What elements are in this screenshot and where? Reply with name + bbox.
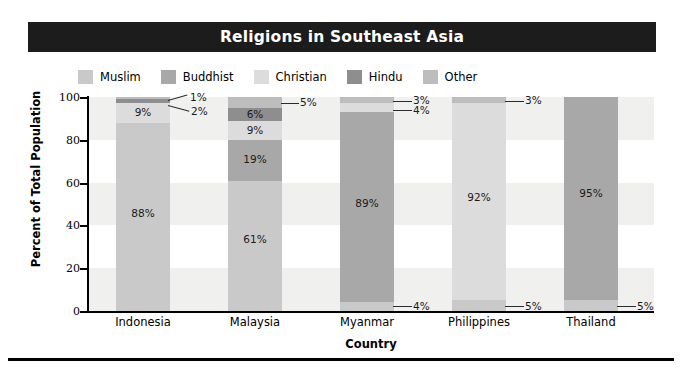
bar-value-malaysia-other: 5%: [300, 96, 317, 108]
bar-segment-indonesia-other[interactable]: [116, 97, 170, 99]
x-axis-label-myanmar: Myanmar: [312, 315, 422, 329]
x-axis-label-indonesia: Indonesia: [88, 315, 198, 329]
ytick-label-80: 80: [54, 134, 80, 147]
leader-line-myanmar-christian: [393, 110, 412, 111]
legend-item-christian: Christian: [254, 70, 327, 84]
leader-line-myanmar-other: [393, 101, 412, 102]
leader-line-myanmar-muslim: [393, 306, 412, 307]
legend-swatch-christian: [254, 70, 269, 84]
bar-segment-malaysia-buddhist[interactable]: 19%: [228, 140, 282, 181]
bar-value-malaysia-christian: 9%: [228, 124, 282, 136]
bar-segment-malaysia-hindu[interactable]: 6%: [228, 108, 282, 121]
bar-value-indonesia-muslim: 88%: [116, 207, 170, 219]
bar-segment-thailand-muslim[interactable]: [564, 300, 618, 311]
x-axis-title: Country: [88, 337, 654, 351]
bar-segment-myanmar-buddhist[interactable]: 89%: [340, 112, 394, 302]
plot-area: 88% 9% 61% 19% 9% 6%: [88, 97, 654, 311]
x-axis-label-thailand: Thailand: [536, 315, 646, 329]
bar-segment-philippines-other[interactable]: [452, 97, 506, 103]
legend-item-muslim: Muslim: [78, 70, 141, 84]
legend-swatch-muslim: [78, 70, 93, 84]
leader-line-malaysia-other: [281, 103, 299, 104]
ytick-label-60: 60: [54, 177, 80, 190]
y-axis-line: [87, 96, 89, 312]
bar-value-malaysia-buddhist: 19%: [228, 153, 282, 165]
bar-segment-indonesia-christian[interactable]: 9%: [116, 103, 170, 122]
x-axis-label-philippines: Philippines: [424, 315, 534, 329]
chart-title-banner: Religions in Southeast Asia: [28, 22, 656, 52]
bar-value-indonesia-hindu: 2%: [191, 105, 208, 117]
legend-label-christian: Christian: [276, 70, 327, 84]
bar-segment-indonesia-hindu[interactable]: [116, 99, 170, 103]
bar-stack-philippines: 92%: [452, 97, 506, 311]
leader-line-thailand-muslim: [617, 306, 636, 307]
bar-value-malaysia-hindu: 6%: [228, 108, 282, 120]
x-axis-line: [87, 311, 654, 313]
bar-stack-malaysia: 61% 19% 9% 6%: [228, 97, 282, 311]
page-title: Religions in Southeast Asia: [220, 28, 464, 46]
legend-label-buddhist: Buddhist: [183, 70, 234, 84]
legend-swatch-hindu: [347, 70, 362, 84]
leader-line-philippines-muslim: [505, 306, 524, 307]
ytick-label-20: 20: [54, 262, 80, 275]
bar-segment-malaysia-other[interactable]: [228, 97, 282, 108]
bar-segment-myanmar-muslim[interactable]: [340, 302, 394, 311]
bar-stack-myanmar: 89%: [340, 97, 394, 311]
bar-segment-myanmar-other[interactable]: [340, 97, 394, 103]
bar-segment-malaysia-christian[interactable]: 9%: [228, 121, 282, 140]
x-axis-label-malaysia: Malaysia: [200, 315, 310, 329]
legend-label-muslim: Muslim: [100, 70, 141, 84]
ytick-label-40: 40: [54, 219, 80, 232]
bar-segment-thailand-buddhist[interactable]: 95%: [564, 97, 618, 300]
legend-item-hindu: Hindu: [347, 70, 403, 84]
bar-value-malaysia-muslim: 61%: [228, 233, 282, 245]
bar-value-philippines-other: 3%: [525, 94, 542, 106]
legend-label-hindu: Hindu: [369, 70, 403, 84]
ytick-label-0: 0: [54, 305, 80, 318]
chart-legend: Muslim Buddhist Christian Hindu Other: [78, 68, 598, 86]
legend-swatch-other: [423, 70, 438, 84]
leader-line-philippines-other: [505, 101, 524, 102]
legend-item-buddhist: Buddhist: [161, 70, 234, 84]
bar-value-indonesia-christian: 9%: [116, 106, 170, 118]
bar-stack-thailand: 95%: [564, 97, 618, 311]
bar-value-myanmar-christian: 4%: [413, 104, 430, 116]
bar-value-indonesia-other: 1%: [190, 91, 207, 103]
bar-stack-indonesia: 88% 9%: [116, 97, 170, 311]
y-axis-tick-labels: 100 80 60 40 20 0: [46, 0, 80, 376]
bar-value-philippines-christian: 92%: [452, 191, 506, 203]
legend-swatch-buddhist: [161, 70, 176, 84]
bottom-divider: [8, 358, 674, 361]
ytick-label-100: 100: [54, 91, 80, 104]
bar-segment-philippines-muslim[interactable]: [452, 300, 506, 311]
bar-segment-myanmar-christian[interactable]: [340, 103, 394, 112]
y-axis-title: Percent of Total Population: [29, 84, 43, 274]
legend-label-other: Other: [445, 70, 478, 84]
bar-value-thailand-buddhist: 95%: [564, 187, 618, 199]
bar-segment-indonesia-muslim[interactable]: 88%: [116, 123, 170, 311]
bar-segment-philippines-christian[interactable]: 92%: [452, 103, 506, 300]
bar-segment-malaysia-muslim[interactable]: 61%: [228, 181, 282, 312]
bar-value-myanmar-buddhist: 89%: [340, 197, 394, 209]
legend-item-other: Other: [423, 70, 478, 84]
